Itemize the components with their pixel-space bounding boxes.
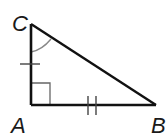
vertex-label-a: A [9, 113, 26, 138]
triangle-diagram: C A B [0, 0, 166, 140]
vertex-label-b: B [151, 113, 166, 138]
vertex-label-c: C [12, 11, 28, 36]
right-angle-marker [31, 83, 50, 105]
angle-arc-c [31, 39, 51, 52]
